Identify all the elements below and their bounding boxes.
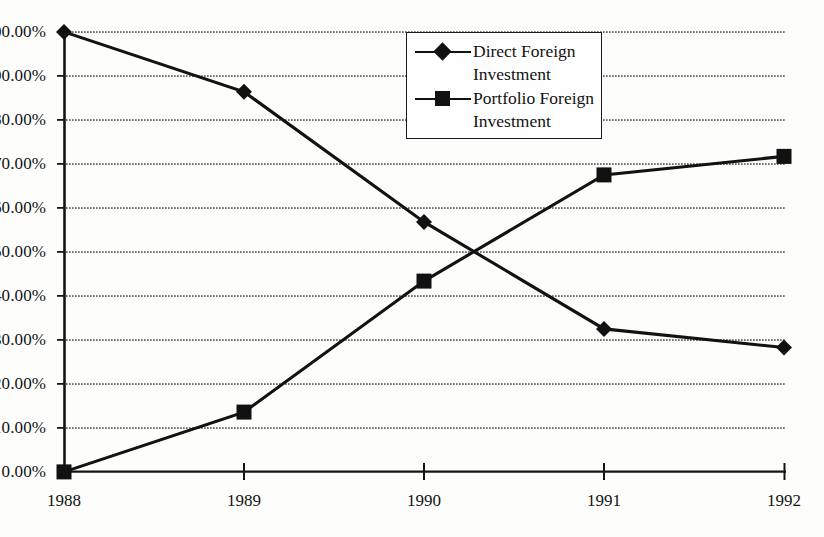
y-tick-label: 0.00% (0, 463, 46, 480)
legend-label: Portfolio ForeignInvestment (471, 87, 594, 133)
y-tick-label: 80.00% (0, 111, 46, 128)
y-tick-label: 20.00% (0, 375, 46, 392)
legend-label-line1: Direct Foreign (473, 41, 576, 61)
y-tick-label: 50.00% (0, 243, 46, 260)
legend-item-direct-foreign-investment: Direct ForeignInvestment (415, 40, 597, 86)
x-tick-label: 1988 (24, 492, 104, 509)
x-tick-label: 1992 (744, 492, 824, 509)
x-tick-label: 1990 (384, 492, 464, 509)
square-marker-icon (415, 88, 471, 109)
y-tick-label: 30.00% (0, 331, 46, 348)
legend-label-line1: Portfolio Foreign (473, 88, 594, 108)
y-tick-label: 70.00% (0, 155, 46, 172)
series-markers-portfolio-foreign-investment (57, 149, 792, 480)
legend-label-line2: Investment (473, 64, 551, 84)
x-tick-label: 1989 (204, 492, 284, 509)
chart-container: 100.00% 90.00% 80.00% 70.00% 60.00% 50.0… (0, 0, 824, 537)
legend-item-portfolio-foreign-investment: Portfolio ForeignInvestment (415, 87, 597, 133)
y-axis-ticks (57, 32, 64, 428)
y-tick-label: 100.00% (0, 23, 46, 40)
diamond-marker-icon (415, 41, 471, 62)
y-tick-label: 90.00% (0, 67, 46, 84)
y-tick-label: 10.00% (0, 419, 46, 436)
y-tick-label: 60.00% (0, 199, 46, 216)
legend-label-line2: Investment (473, 111, 551, 131)
legend-label: Direct ForeignInvestment (471, 40, 576, 86)
y-tick-label: 40.00% (0, 287, 46, 304)
chart-legend: Direct ForeignInvestment Portfolio Forei… (406, 32, 602, 139)
x-tick-label: 1991 (564, 492, 644, 509)
series-line-portfolio-foreign-investment (64, 156, 784, 472)
